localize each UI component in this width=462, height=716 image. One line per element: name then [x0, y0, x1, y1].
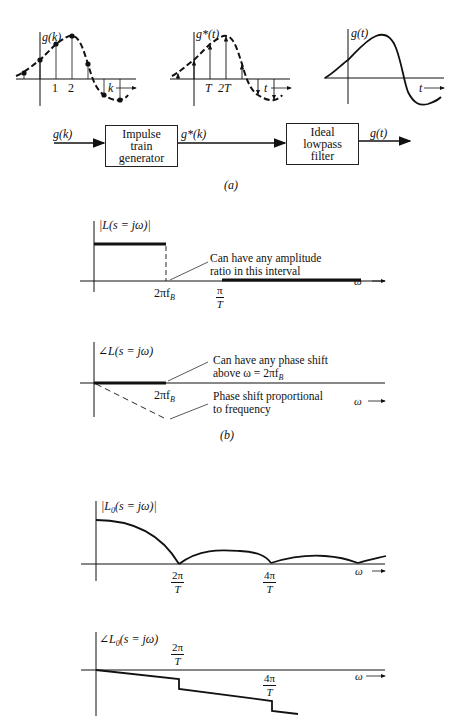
- L0-mag-ylabel-b: (s = jω)|: [115, 499, 157, 513]
- tick-2T: 2T: [218, 82, 231, 94]
- impulse-train-generator-block: Impulse train generator: [105, 125, 178, 167]
- L0-magnitude-ylabel: |L0(s = jω)|: [101, 500, 157, 515]
- tick-T: T: [205, 82, 212, 94]
- amplitude-annotation-line2: ratio in this interval: [210, 265, 321, 278]
- input-label: g(k): [53, 128, 72, 140]
- amplitude-annotation: Can have any amplitude ratio in this int…: [210, 252, 321, 278]
- tick-4pi-over-T: 4π T: [263, 570, 276, 595]
- omega-label-b2: ω: [354, 396, 362, 407]
- L-phase-ylabel: ∠L(s = jω): [98, 345, 153, 357]
- proportional-annotation-line1: Phase shift proportional: [213, 390, 323, 403]
- proportional-annotation: Phase shift proportional to frequency: [213, 390, 323, 416]
- tick-4pi-den: T: [266, 583, 272, 595]
- L-magnitude-ylabel: |L(s = jω)|: [99, 219, 151, 231]
- tick-4pi-over-T-phase: 4π T: [263, 673, 276, 698]
- block2-line3: filter: [311, 150, 334, 162]
- tick-2pi-fb-phase-text: 2πf: [154, 388, 170, 402]
- phase-shift-annotation: Can have any phase shift above ω = 2πfB: [213, 354, 328, 384]
- proportional-annotation-line2: to frequency: [213, 403, 323, 416]
- amplitude-annotation-line1: Can have any amplitude: [210, 252, 321, 265]
- block1-line3: generator: [119, 152, 164, 164]
- tick-2pi-over-T-phase: 2π T: [171, 642, 184, 667]
- tick-2pi-phase-num: 2π: [171, 642, 184, 655]
- g-star-t-ylabel: g*(t): [196, 28, 219, 40]
- output-label: g(t): [370, 127, 387, 139]
- omega-label-c2: ω: [355, 671, 363, 682]
- tick-2pi-over-T: 2π T: [171, 570, 184, 595]
- tick-2: 2: [68, 82, 74, 94]
- L0-phase-ylabel-b: (s = jω): [120, 632, 159, 646]
- caption-a: (a): [224, 179, 238, 191]
- tick-4pi-phase-num: 4π: [263, 673, 276, 686]
- phase-annotation-line2-text: above ω = 2πf: [213, 367, 279, 379]
- L0-phase-ylabel: ∠L0(s = jω): [99, 633, 158, 648]
- L0-phase-ylabel-a: ∠L: [99, 632, 116, 646]
- plot-g-t: [324, 29, 444, 105]
- mid-label: g*(k): [181, 128, 206, 140]
- plot-g-k: [16, 32, 136, 106]
- pi-den: T: [217, 298, 223, 310]
- tick-2pi-fb-text: 2πf: [154, 286, 170, 300]
- k-axis-label: k: [108, 82, 113, 94]
- tick-4pi-phase-den: T: [266, 686, 272, 698]
- tick-pi-over-T: π T: [216, 285, 224, 310]
- g-k-ylabel: g(k): [42, 31, 61, 43]
- tick-2pi-phase-den: T: [174, 655, 180, 667]
- tick-4pi-num: 4π: [263, 570, 276, 583]
- caption-b: (b): [220, 429, 234, 441]
- tick-2pi-fb-phase-sub: B: [170, 395, 175, 404]
- omega-label-c1: ω: [355, 566, 363, 577]
- t-axis-label-2: t: [264, 82, 267, 94]
- tick-2pi-fb-phase: 2πfB: [154, 389, 175, 404]
- t-axis-label-3: t: [419, 82, 422, 94]
- g-t-ylabel: g(t): [351, 27, 368, 39]
- tick-2pi-fb-sub: B: [170, 293, 175, 302]
- tick-2pi-den: T: [174, 583, 180, 595]
- phase-annotation-line2: above ω = 2πfB: [213, 367, 328, 384]
- L0-mag-ylabel-a: |L: [101, 499, 111, 513]
- tick-2pi-num: 2π: [171, 570, 184, 583]
- omega-label-b1: ω: [354, 276, 362, 287]
- ideal-lowpass-filter-block: Ideal lowpass filter: [286, 123, 359, 165]
- tick-1: 1: [52, 82, 58, 94]
- phase-annotation-sub: B: [279, 373, 284, 382]
- tick-2pi-fb: 2πfB: [154, 287, 175, 302]
- pi-num: π: [216, 285, 224, 298]
- phase-annotation-line1: Can have any phase shift: [213, 354, 328, 367]
